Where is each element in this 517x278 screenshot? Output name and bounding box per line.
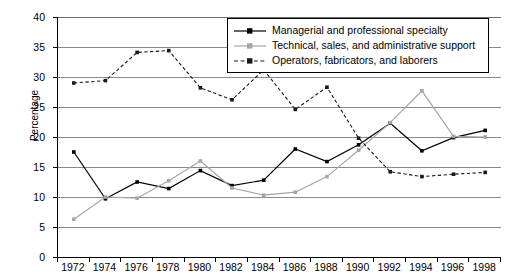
x-axis-tick-mark [437, 258, 438, 262]
data-point-marker [199, 169, 203, 173]
legend-label-operators: Operators, fabricators, and laborers [272, 55, 438, 66]
legend-key-technical [233, 40, 267, 52]
data-point-marker [420, 175, 424, 179]
legend-key-managerial [233, 25, 267, 37]
x-axis-tick-mark [373, 258, 374, 262]
data-point-marker [167, 179, 171, 183]
data-point-marker [135, 180, 139, 184]
data-point-marker [420, 89, 424, 93]
data-point-marker [294, 147, 298, 151]
series-technical [72, 89, 487, 221]
y-axis-tick-label: 40 [5, 12, 45, 23]
legend-item-operators: Operators, fabricators, and laborers [233, 53, 482, 68]
y-axis-tick-label: 5 [5, 222, 45, 233]
legend-item-managerial: Managerial and professional specialty [233, 23, 482, 38]
data-point-marker [230, 186, 234, 190]
data-point-marker [72, 217, 76, 221]
data-point-marker [199, 86, 203, 90]
x-axis-tick-mark [247, 258, 248, 262]
x-axis-tick-mark [120, 258, 121, 262]
data-point-marker [135, 51, 139, 55]
data-point-marker [199, 159, 203, 163]
data-point-marker [483, 129, 487, 133]
data-point-marker [135, 196, 139, 200]
x-axis-tick-mark [342, 258, 343, 262]
x-axis-tick-mark [279, 258, 280, 262]
x-axis-tick-mark [57, 258, 58, 262]
data-point-marker [104, 79, 108, 83]
data-point-marker [230, 98, 234, 102]
y-axis-tick-label: 25 [5, 102, 45, 113]
x-axis-tick-mark [152, 258, 153, 262]
y-axis-tick-label: 20 [5, 132, 45, 143]
data-point-marker [483, 135, 487, 139]
legend-label-managerial: Managerial and professional specialty [272, 25, 448, 36]
data-point-marker [167, 49, 171, 53]
data-point-marker [388, 170, 392, 174]
data-point-marker [420, 149, 424, 153]
line-chart: Percentage 0510152025303540 197219741976… [0, 0, 517, 278]
y-axis-tick-label: 0 [5, 252, 45, 263]
data-point-marker [325, 85, 329, 89]
legend-key-operators [233, 55, 267, 67]
data-point-marker [325, 175, 329, 179]
data-point-marker [262, 178, 266, 182]
x-axis-tick-label: 1998 [462, 262, 506, 273]
data-point-marker [357, 136, 361, 140]
series-line [74, 123, 485, 199]
y-axis-tick-label: 35 [5, 42, 45, 53]
x-axis-tick-mark [468, 258, 469, 262]
data-point-marker [325, 160, 329, 164]
data-point-marker [452, 135, 456, 139]
x-axis-tick-mark [89, 258, 90, 262]
data-point-marker [388, 121, 392, 125]
data-point-marker [452, 172, 456, 176]
data-point-marker [483, 171, 487, 175]
data-point-marker [357, 148, 361, 152]
data-point-marker [294, 190, 298, 194]
series-managerial [72, 121, 487, 200]
data-point-marker [294, 108, 298, 112]
data-point-marker [72, 81, 76, 85]
legend-label-technical: Technical, sales, and administrative sup… [272, 40, 475, 51]
x-axis-tick-mark [500, 258, 501, 262]
x-axis-tick-mark [310, 258, 311, 262]
data-point-marker [262, 193, 266, 197]
data-point-marker [72, 150, 76, 154]
y-axis-tick-label: 15 [5, 162, 45, 173]
x-axis-tick-mark [405, 258, 406, 262]
legend-item-technical: Technical, sales, and administrative sup… [233, 38, 482, 53]
data-point-marker [167, 187, 171, 191]
x-axis-tick-mark [184, 258, 185, 262]
x-axis-tick-mark [215, 258, 216, 262]
y-axis-tick-label: 30 [5, 72, 45, 83]
chart-legend: Managerial and professional specialty Te… [227, 18, 489, 73]
data-point-marker [357, 143, 361, 147]
data-point-marker [104, 195, 108, 199]
y-axis-tick-label: 10 [5, 192, 45, 203]
